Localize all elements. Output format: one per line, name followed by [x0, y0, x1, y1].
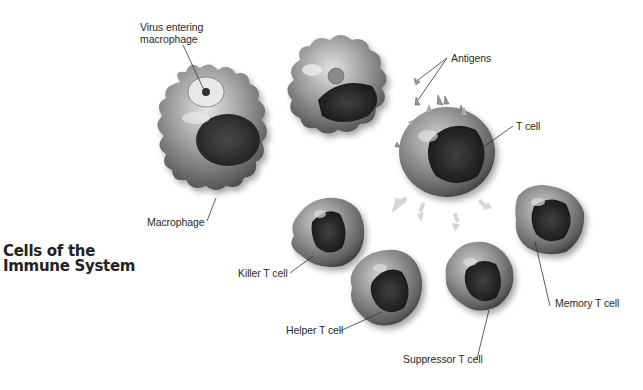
label-virus-line1: Virus entering: [140, 21, 203, 33]
immune-cells-diagram: Virus entering macrophage Antigens T cel…: [0, 0, 643, 390]
label-t-cell: T cell: [516, 120, 540, 132]
title-line2: Immune System: [3, 259, 135, 274]
suppressor-t-cell: [446, 242, 514, 311]
label-memory-t-cell: Memory T cell: [555, 297, 619, 309]
label-macrophage: Macrophage: [147, 216, 204, 228]
label-suppressor-t-cell: Suppressor T cell: [403, 353, 483, 365]
diagram-title: Cells of the Immune System: [3, 244, 135, 274]
label-virus-entering-macrophage: Virus entering macrophage: [140, 21, 203, 45]
memory-t-cell: [515, 185, 584, 254]
killer-t-cell: [291, 198, 364, 267]
t-cell: [399, 104, 495, 197]
infected-cell: [287, 35, 386, 134]
helper-t-cell: [351, 250, 422, 326]
macrophage-cell: [157, 64, 267, 190]
label-killer-t-cell: Killer T cell: [238, 267, 288, 279]
differentiation-arrows: [395, 198, 492, 232]
label-antigens: Antigens: [451, 52, 491, 64]
label-helper-t-cell: Helper T cell: [286, 324, 343, 336]
label-virus-line2: macrophage: [140, 33, 203, 45]
